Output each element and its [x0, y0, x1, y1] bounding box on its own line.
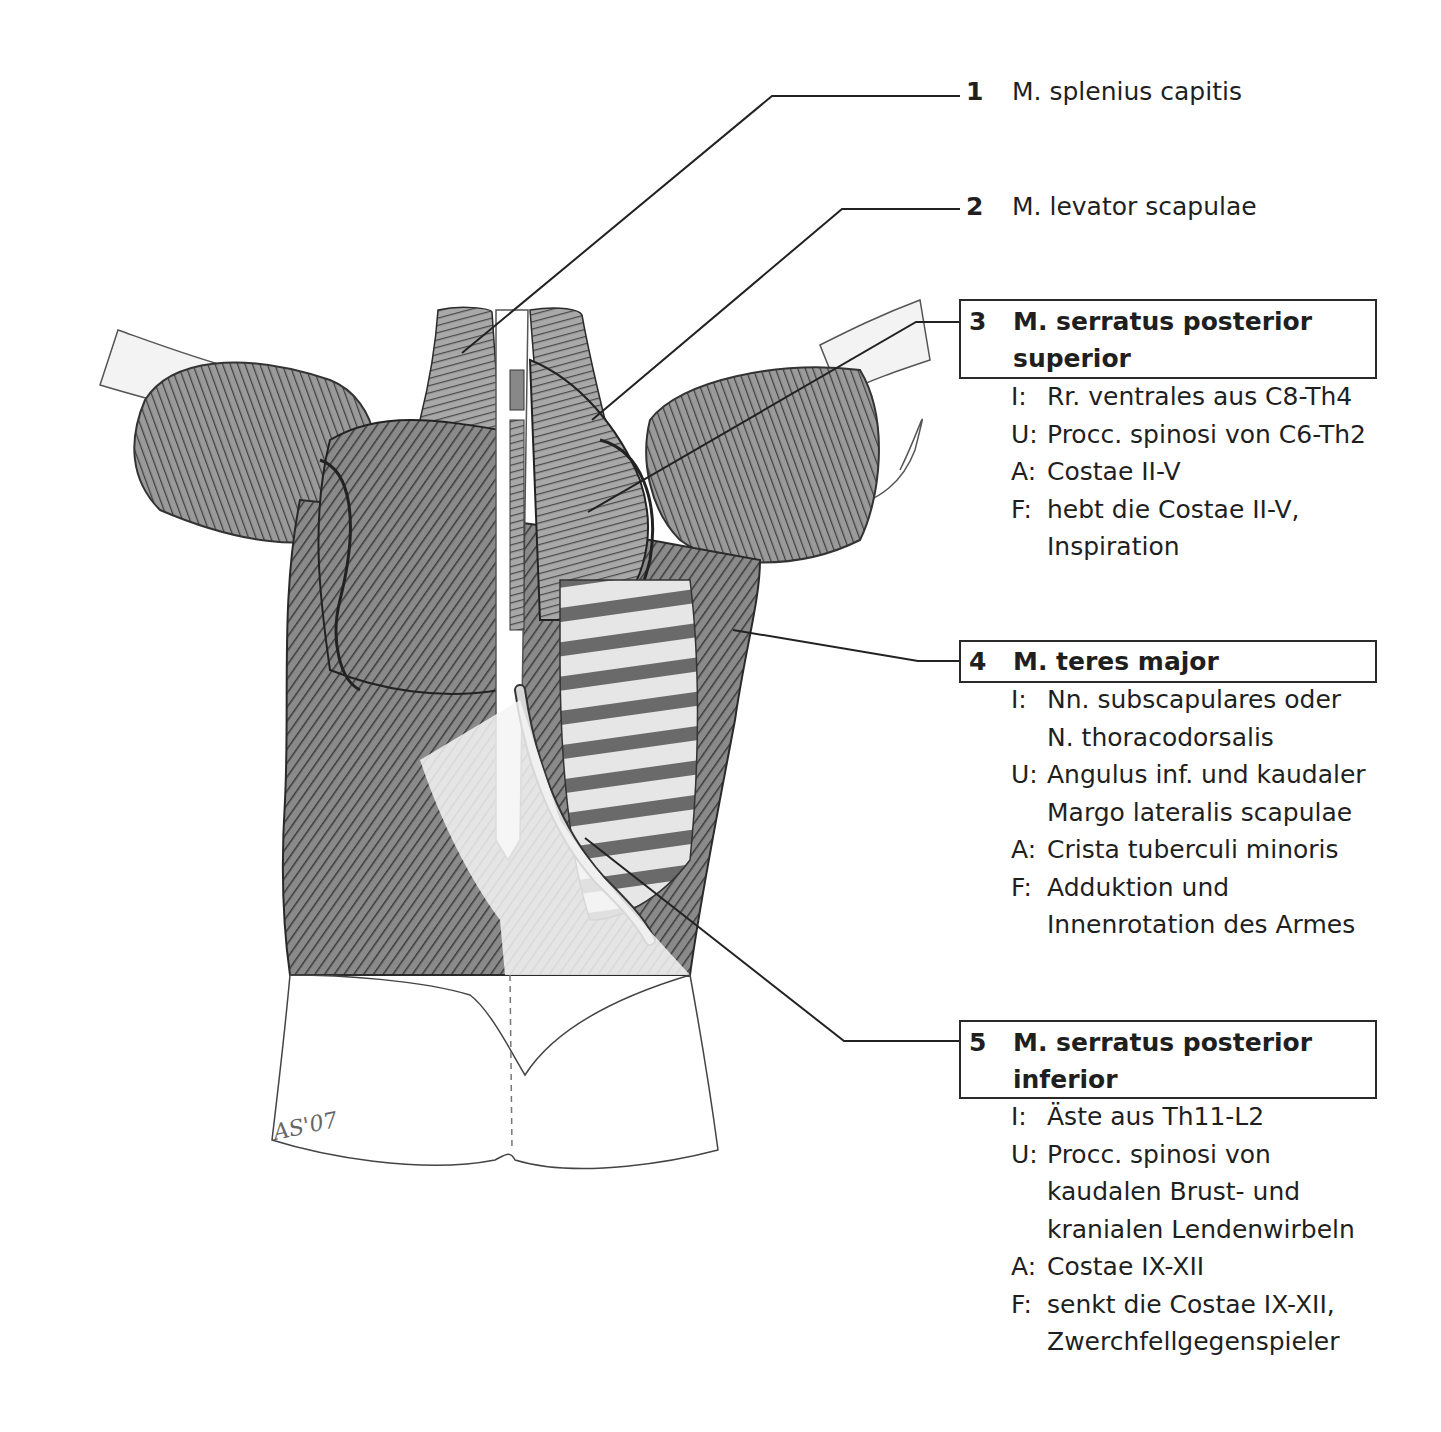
detail-origin: U:Procc. spinosi vonkaudalen Brust- undk…: [1011, 1136, 1355, 1249]
detail-innervation: I:Rr. ventrales aus C8-Th4: [1011, 378, 1366, 416]
label-3-details: I:Rr. ventrales aus C8-Th4 U:Procc. spin…: [1011, 378, 1366, 566]
label-5-details: I:Äste aus Th11-L2 U:Procc. spinosi vonk…: [1011, 1098, 1355, 1361]
label-5-box: 5 M. serratus posterior inferior: [959, 1020, 1377, 1099]
muscle-name: M. teres major: [1013, 643, 1333, 680]
muscle-name: M. serratus posterior superior: [1013, 303, 1333, 377]
label-3-box: 3 M. serratus posterior superior: [959, 299, 1377, 379]
detail-insertion: A:Costae IX-XII: [1011, 1248, 1355, 1286]
label-number: 4: [969, 643, 999, 681]
detail-innervation: I:Äste aus Th11-L2: [1011, 1098, 1355, 1136]
muscle-name: M. splenius capitis: [1012, 73, 1242, 111]
label-number: 3: [969, 303, 999, 341]
label-4-details: I:Nn. subscapulares oderN. thoracodorsal…: [1011, 681, 1366, 944]
label-2: 2 M. levator scapulae: [966, 188, 1366, 228]
detail-function: F:Adduktion undInnenrotation des Armes: [1011, 869, 1366, 944]
label-number: 5: [969, 1024, 999, 1062]
left-scapula-region: [318, 420, 500, 694]
detail-insertion: A:Crista tuberculi minoris: [1011, 831, 1366, 869]
muscle-name: M. serratus posterior inferior: [1013, 1024, 1333, 1098]
neck-muscles: [420, 307, 500, 434]
leader-line-4: [733, 630, 960, 661]
detail-innervation: I:Nn. subscapulares oderN. thoracodorsal…: [1011, 681, 1366, 756]
label-number: 2: [966, 188, 996, 226]
label-number: 1: [966, 73, 996, 111]
detail-origin: U:Procc. spinosi von C6-Th2: [1011, 416, 1366, 454]
detail-function: F:hebt die Costae II-V,Inspiration: [1011, 491, 1366, 566]
detail-insertion: A:Costae II-V: [1011, 453, 1366, 491]
label-1: 1 M. splenius capitis: [966, 73, 1366, 113]
label-4-box: 4 M. teres major: [959, 640, 1377, 683]
gluteal-outline: [272, 975, 718, 1169]
detail-origin: U:Angulus inf. und kaudalerMargo lateral…: [1011, 756, 1366, 831]
detail-function: F:senkt die Costae IX-XII,Zwerchfellgege…: [1011, 1286, 1355, 1361]
muscle-name: M. levator scapulae: [1012, 188, 1257, 226]
